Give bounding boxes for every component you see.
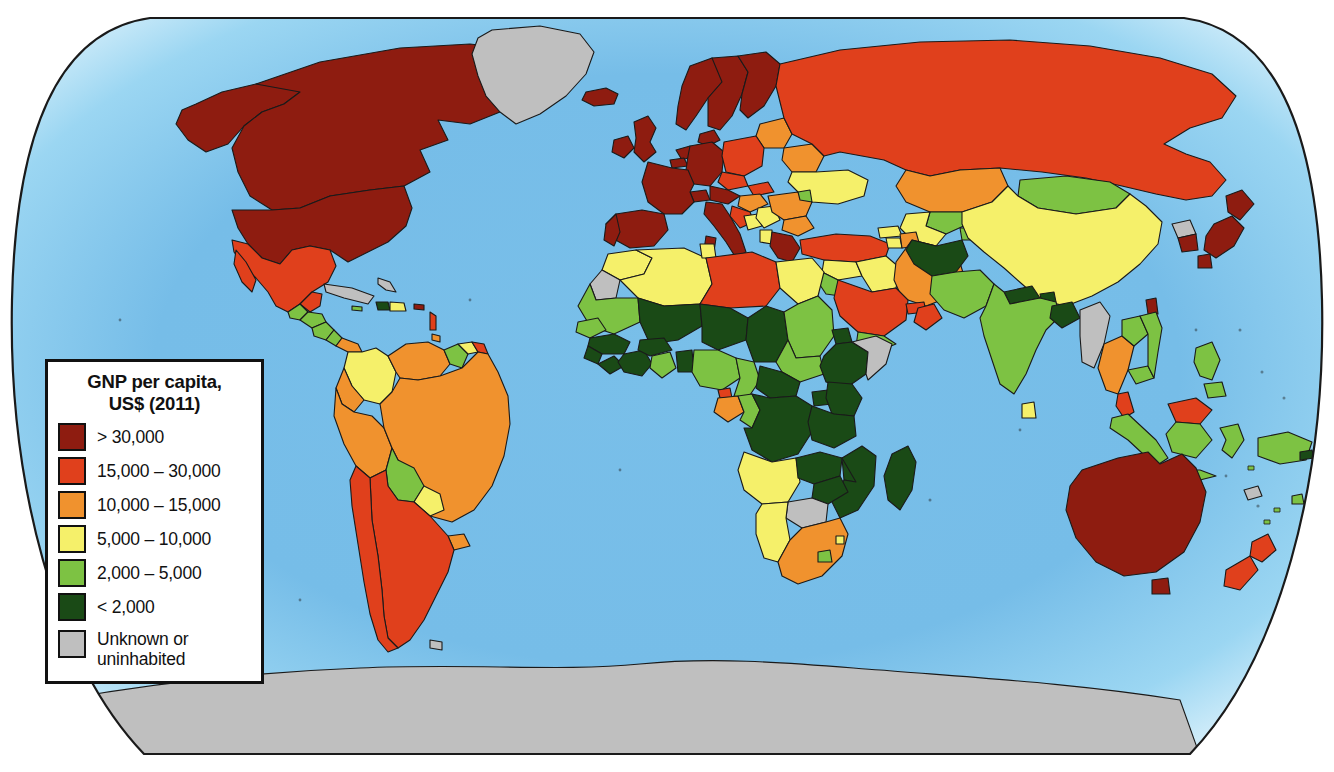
region-haiti — [376, 302, 390, 310]
legend-label-10000-15000: 10,000 – 15,000 — [97, 495, 221, 515]
world-map-figure: GNP per capita, US$ (2011) > 30,000 15,0… — [0, 0, 1334, 772]
region-lesotho — [818, 550, 832, 562]
region-fiji — [1292, 494, 1304, 504]
legend-item-10000-15000: 10,000 – 15,000 — [58, 491, 251, 519]
legend-title-line-1: GNP per capita, — [58, 371, 251, 393]
legend-swatch-10000-15000 — [58, 491, 86, 519]
legend-item-unknown: Unknown or uninhabited — [58, 627, 251, 671]
legend-item-2000-5000: 2,000 – 5,000 — [58, 559, 251, 587]
region-libya — [700, 252, 780, 308]
legend-swatch-2000-5000 — [58, 559, 86, 587]
legend-item-gt-30000: > 30,000 — [58, 423, 251, 451]
map-legend: GNP per capita, US$ (2011) > 30,000 15,0… — [45, 359, 264, 684]
legend-item-15000-30000: 15,000 – 30,000 — [58, 457, 251, 485]
region-puerto-rico — [414, 304, 424, 310]
region-dominican-republic — [390, 302, 406, 311]
legend-item-5000-10000: 5,000 – 10,000 — [58, 525, 251, 553]
legend-title: GNP per capita, US$ (2011) — [58, 371, 251, 415]
region-philippines-south — [1204, 382, 1226, 398]
legend-label-gt-30000: > 30,000 — [97, 427, 164, 447]
region-armenia — [886, 238, 902, 248]
legend-label-2000-5000: 2,000 – 5,000 — [97, 563, 201, 583]
legend-swatch-5000-10000 — [58, 525, 86, 553]
region-belgium — [670, 158, 688, 168]
legend-title-line-2: US$ (2011) — [58, 393, 251, 415]
region-swaziland — [836, 536, 844, 544]
region-sri-lanka — [1022, 402, 1036, 418]
legend-label-5000-10000: 5,000 – 10,000 — [97, 529, 211, 549]
legend-label-lt-2000: < 2,000 — [97, 597, 154, 617]
legend-swatch-lt-2000 — [58, 593, 86, 621]
region-tunisia — [700, 244, 716, 258]
region-trinidad — [432, 334, 440, 342]
legend-swatch-gt-30000 — [58, 423, 86, 451]
region-georgia — [878, 226, 902, 238]
region-togo-benin — [676, 350, 694, 372]
region-tasmania — [1152, 578, 1170, 594]
legend-swatch-unknown — [58, 630, 86, 658]
region-moldova — [798, 190, 812, 202]
region-japan-kyushu — [1198, 254, 1212, 268]
legend-swatch-15000-30000 — [58, 457, 86, 485]
legend-item-lt-2000: < 2,000 — [58, 593, 251, 621]
region-eritrea — [832, 328, 852, 344]
region-falklands — [430, 640, 442, 650]
legend-label-15000-30000: 15,000 – 30,000 — [97, 461, 221, 481]
legend-label-unknown: Unknown or uninhabited — [97, 629, 188, 669]
region-jamaica — [352, 306, 362, 311]
